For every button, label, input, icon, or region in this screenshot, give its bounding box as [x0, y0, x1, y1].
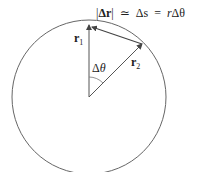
equation: |Δr| ≃ Δs = rΔθ: [96, 6, 185, 20]
delta-theta-label: Δθ: [92, 61, 106, 75]
angle-arc: [89, 77, 103, 83]
r1-label: r1: [74, 31, 83, 47]
r2-label: r2: [131, 55, 140, 71]
circular-motion-diagram: |Δr| ≃ Δs = rΔθ r1 r2 Δθ: [0, 0, 207, 172]
